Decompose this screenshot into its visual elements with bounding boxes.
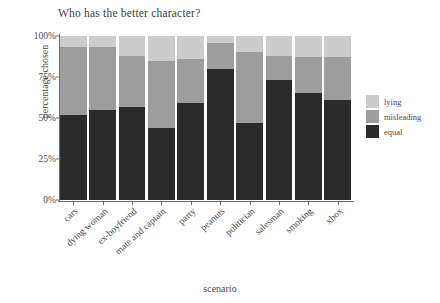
y-tick-label: 75%: [39, 72, 56, 82]
bar-column: [207, 36, 234, 200]
chart-legend: lyingmisleadingequal: [366, 95, 421, 138]
x-tick-mark: [161, 201, 162, 205]
bar-segment-misleading: [295, 57, 322, 93]
bar-column: [266, 36, 293, 200]
bar-segment-misleading: [266, 56, 293, 81]
bar-segment-equal: [148, 128, 175, 200]
bar-column: [119, 36, 146, 200]
bar-group: [60, 36, 351, 200]
bar-segment-equal: [324, 100, 351, 200]
x-tick-mark: [132, 201, 133, 205]
x-tick-mark: [220, 201, 221, 205]
legend-swatch-equal: [366, 125, 379, 138]
bar-segment-lying: [236, 36, 263, 52]
bar-segment-misleading: [60, 47, 87, 114]
bar-column: [295, 36, 322, 200]
bar-segment-equal: [177, 103, 204, 200]
bar-column: [236, 36, 263, 200]
bar-segment-misleading: [207, 43, 234, 69]
bar-segment-lying: [324, 36, 351, 57]
bar-segment-lying: [60, 36, 87, 47]
bar-segment-equal: [236, 123, 263, 200]
bar-segment-lying: [177, 36, 204, 59]
bar-segment-equal: [266, 80, 293, 200]
y-tick-label: 50%: [39, 113, 56, 123]
bar-column: [60, 36, 87, 200]
legend-item: equal: [366, 125, 421, 138]
x-tick-mark: [308, 201, 309, 205]
legend-item: lying: [366, 95, 421, 108]
bar-segment-equal: [295, 93, 322, 200]
bar-segment-misleading: [324, 57, 351, 100]
bar-segment-misleading: [236, 52, 263, 123]
bar-column: [148, 36, 175, 200]
bar-segment-misleading: [89, 47, 116, 109]
bar-segment-equal: [207, 69, 234, 200]
legend-swatch-lying: [366, 95, 379, 108]
bar-column: [324, 36, 351, 200]
plot-area: 0%25%50%75%100%: [60, 36, 351, 200]
legend-swatch-misleading: [366, 110, 379, 123]
bar-segment-equal: [119, 107, 146, 200]
bar-segment-equal: [60, 115, 87, 200]
x-tick-mark: [250, 201, 251, 205]
y-tick-label: 100%: [34, 31, 56, 41]
bar-segment-misleading: [148, 61, 175, 128]
legend-label: equal: [384, 127, 402, 137]
bar-segment-lying: [119, 36, 146, 56]
bar-segment-equal: [89, 110, 116, 200]
x-tick-mark: [191, 201, 192, 205]
y-tick-label: 0%: [43, 195, 56, 205]
bar-segment-misleading: [119, 56, 146, 107]
bar-segment-lying: [148, 36, 175, 61]
bar-segment-lying: [266, 36, 293, 56]
bar-column: [89, 36, 116, 200]
bar-segment-lying: [295, 36, 322, 57]
legend-label: lying: [384, 97, 401, 107]
y-tick-label: 25%: [39, 154, 56, 164]
legend-label: misleading: [384, 112, 421, 122]
x-tick-mark: [338, 201, 339, 205]
bar-segment-misleading: [177, 59, 204, 103]
legend-item: misleading: [366, 110, 421, 123]
bar-column: [177, 36, 204, 200]
chart-title: Who has the better character?: [58, 7, 200, 19]
x-tick-mark: [103, 201, 104, 205]
x-tick-mark: [73, 201, 74, 205]
x-axis-title: scenario: [0, 283, 440, 294]
chart-figure: Who has the better character? percentage…: [0, 0, 440, 303]
x-tick-mark: [279, 201, 280, 205]
bar-segment-lying: [89, 36, 116, 47]
